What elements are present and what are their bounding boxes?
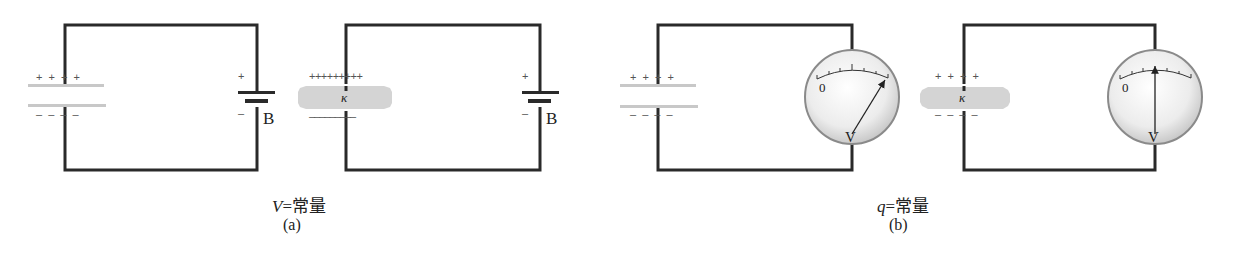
battery-minus: – [522, 107, 529, 119]
minus-charges: – – – – [36, 108, 80, 120]
plus-charges: + + + + [630, 71, 675, 83]
capacitor-dielectric-diagram: + + + + – – – – + – B κ +++++++++ ––––––… [0, 0, 1233, 257]
battery-short-plate [245, 99, 268, 103]
caption-a: V=常量 [272, 192, 326, 217]
caption-b-variable: q [877, 197, 886, 216]
caption-a-text: =常量 [282, 197, 326, 216]
battery-long-plate [522, 91, 559, 94]
battery-long-plate [238, 91, 275, 94]
dielectric-label: κ [341, 90, 348, 105]
battery-plus: + [522, 70, 528, 82]
dielectric-label: κ [959, 90, 966, 105]
circuit-a2: κ +++++++++ ––––––––– + – B [298, 25, 559, 170]
battery-short-plate [528, 99, 551, 103]
plus-charges: + + + + [36, 71, 81, 83]
meter-zero: 0 [819, 80, 826, 95]
minus-charges: ––––––––– [309, 110, 357, 122]
circuit-b1: + + + + – – – – 0 V [620, 25, 899, 170]
minus-charges: – – – – [630, 108, 674, 120]
meter-label: V [845, 129, 856, 145]
voltmeter: 0 V [1108, 50, 1202, 145]
circuit-b2: κ + + + + – – – – 0 V [920, 25, 1202, 170]
meter-label: V [1148, 129, 1159, 145]
voltmeter: 0 V [805, 50, 899, 145]
panel-label-b: (b) [889, 216, 908, 234]
meter-zero: 0 [1122, 80, 1129, 95]
capacitor-plate-top [28, 84, 104, 87]
caption-a-variable: V [272, 197, 282, 216]
battery-label: B [546, 109, 557, 128]
minus-charges: – – – – [935, 108, 979, 120]
battery-label: B [263, 109, 274, 128]
plus-charges: + + + + [935, 70, 980, 82]
wire-loop [65, 25, 257, 170]
plus-charges: +++++++++ [309, 70, 362, 82]
battery-minus: – [238, 107, 245, 119]
capacitor-plate-bottom [28, 104, 106, 107]
caption-b-text: =常量 [886, 197, 930, 216]
caption-b: q=常量 [877, 192, 929, 217]
panel-label-a: (a) [283, 216, 301, 234]
circuit-a1: + + + + – – – – + – B [28, 25, 275, 170]
battery-plus: + [238, 70, 244, 82]
capacitor-plate-top [620, 84, 696, 87]
